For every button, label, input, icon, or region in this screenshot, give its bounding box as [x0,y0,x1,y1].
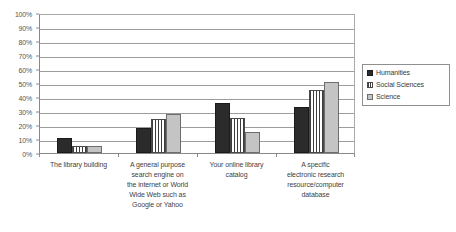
x-axis-label-line: A general purpose [112,160,203,170]
x-axis-tick-mark [276,154,277,157]
bar-group [198,15,277,153]
chart-legend: HumanitiesSocial SciencesScience [362,64,450,106]
bar [324,82,339,153]
x-axis-category-label: Your online librarycatalog [191,160,282,180]
x-axis-label-line: electronic research [270,170,361,180]
legend-item-label: Humanities [376,69,410,77]
x-axis-label-line: search engine on [112,170,203,180]
legend-item-label: Social Sciences [376,81,424,89]
y-axis: 0%10%20%30%40%50%60%70%80%90%100% [0,14,36,154]
x-axis-tick-mark [118,154,119,157]
x-axis-label-line: Google or Yahoo [112,200,203,210]
x-axis-label-line: catalog [191,170,282,180]
bar-chart: 0%10%20%30%40%50%60%70%80%90%100% The li… [0,0,456,232]
legend-item-label: Science [376,93,400,101]
legend-item: Science [367,92,446,101]
bar [166,114,181,153]
bar [72,146,87,153]
bar [136,128,151,153]
x-axis-label-line: The library building [33,160,124,170]
plot-area [39,14,355,154]
y-axis-tick-label: 50% [19,81,32,88]
bar [294,107,309,153]
x-axis-tick-mark [354,154,355,157]
y-axis-tick-label: 80% [19,39,32,46]
bar [215,103,230,153]
y-axis-tick-label: 10% [19,137,32,144]
legend-swatch-icon [367,70,373,76]
y-axis-tick-label: 100% [15,11,32,18]
x-axis-tick-mark [197,154,198,157]
x-axis-category-label: The library building [33,160,124,170]
x-axis-label-line: Your online library [191,160,282,170]
bar-group [119,15,198,153]
bar [57,138,72,153]
x-axis-category-label: A general purposesearch engine onthe int… [112,160,203,210]
x-axis-category-label: A specificelectronic researchresource/co… [270,160,361,200]
y-axis-tick-label: 30% [19,109,32,116]
bar-group [277,15,356,153]
bars-layer [40,15,354,153]
y-axis-tick-label: 40% [19,95,32,102]
legend-swatch-icon [367,94,373,100]
y-axis-tick-label: 90% [19,25,32,32]
x-axis-label-line: the internet or World [112,180,203,190]
legend-item: Social Sciences [367,80,446,89]
bar [245,132,260,153]
x-axis-label-line: Wide Web such as [112,190,203,200]
x-axis-label-line: database [270,190,361,200]
bar [151,119,166,153]
y-axis-tick-label: 60% [19,67,32,74]
x-axis-label-line: A specific [270,160,361,170]
x-axis-ticks [39,154,355,158]
bar-group [40,15,119,153]
y-axis-tick-label: 0% [22,151,32,158]
legend-item: Humanities [367,68,446,77]
legend-swatch-icon [367,82,373,88]
x-axis-tick-mark [39,154,40,157]
y-axis-tick-label: 20% [19,123,32,130]
x-axis-labels: The library buildingA general purposesea… [39,160,355,230]
x-axis-label-line: resource/computer [270,180,361,190]
y-axis-tick-label: 70% [19,53,32,60]
bar [87,146,102,153]
bar [309,90,324,153]
bar [230,118,245,153]
